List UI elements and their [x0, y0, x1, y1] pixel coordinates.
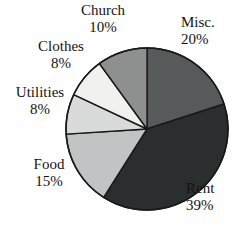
- slice-percent-utilities: 8%: [2, 101, 78, 118]
- pie-chart-figure: Misc. 20% Rent 39% Food 15% Utilities 8%…: [0, 0, 250, 228]
- slice-label-church: Church 10%: [63, 2, 143, 36]
- slice-name-misc: Misc.: [181, 14, 243, 31]
- slice-label-food: Food 15%: [18, 156, 80, 190]
- slice-label-clothes: Clothes 8%: [24, 38, 98, 72]
- slice-percent-clothes: 8%: [24, 55, 98, 72]
- slice-label-utilities: Utilities 8%: [2, 84, 78, 118]
- slice-name-rent: Rent: [186, 180, 244, 197]
- slice-percent-rent: 39%: [186, 197, 244, 214]
- slice-name-clothes: Clothes: [24, 38, 98, 55]
- slice-percent-food: 15%: [18, 173, 80, 190]
- slice-name-church: Church: [63, 2, 143, 19]
- slice-label-misc: Misc. 20%: [181, 14, 243, 48]
- slice-label-rent: Rent 39%: [186, 180, 244, 214]
- slice-percent-church: 10%: [63, 19, 143, 36]
- slice-name-utilities: Utilities: [2, 84, 78, 101]
- slice-percent-misc: 20%: [181, 31, 243, 48]
- slice-name-food: Food: [18, 156, 80, 173]
